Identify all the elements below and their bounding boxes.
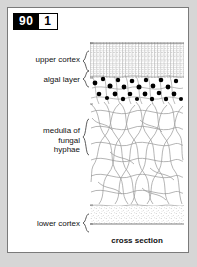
brace-medulla — [82, 118, 90, 156]
brace-algal-layer — [82, 70, 90, 88]
lichen-cross-section-diagram — [90, 42, 184, 232]
label-medulla-line-3: hyphae — [12, 145, 80, 155]
figure-badge: 90 1 — [13, 13, 58, 30]
label-medulla: medulla of fungal hyphae — [12, 126, 80, 155]
brace-upper-cortex — [82, 50, 90, 72]
badge-figure-index: 1 — [38, 14, 56, 29]
label-medulla-line-1: medulla of — [12, 126, 80, 136]
brace-lower-cortex — [82, 213, 90, 233]
label-medulla-line-2: fungal — [12, 136, 80, 146]
layer-lower-cortex — [90, 205, 184, 224]
badge-page-number: 90 — [14, 14, 38, 29]
label-lower-cortex: lower cortex — [12, 219, 80, 229]
label-upper-cortex: upper cortex — [12, 55, 80, 65]
label-algal-layer: algal layer — [12, 75, 80, 85]
layer-upper-cortex — [90, 42, 184, 78]
figure-caption: cross section — [90, 236, 184, 245]
figure-card: 90 1 upper cortex algal layer medulla of… — [7, 7, 189, 253]
